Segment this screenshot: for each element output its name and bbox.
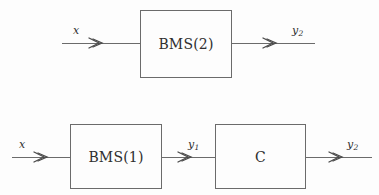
signal-subscript: 1: [195, 143, 200, 152]
wire-bottom-intermediate: [161, 157, 216, 158]
signal-subscript: 2: [299, 29, 304, 38]
block-c-label: C: [255, 149, 266, 165]
block-bms2-label: BMS(2): [158, 36, 213, 52]
signal-label-bottom-intermediate: y1: [188, 139, 199, 150]
signal-base: y: [188, 138, 194, 151]
signal-label-top-output: y2: [292, 25, 303, 36]
signal-label-bottom-output: y2: [347, 139, 358, 150]
signal-label-top-input: x: [73, 25, 79, 36]
wire-bottom-input: [12, 157, 71, 158]
block-c[interactable]: C: [215, 124, 306, 189]
block-bms1[interactable]: BMS(1): [70, 124, 162, 189]
block-bms1-label: BMS(1): [88, 149, 143, 165]
block-bms2[interactable]: BMS(2): [140, 10, 232, 78]
wire-bottom-output: [305, 157, 372, 158]
signal-base: y: [292, 24, 298, 37]
wire-top-output: [231, 43, 315, 44]
wire-top-input: [62, 43, 141, 44]
block-diagram: x BMS(2) y2 x BMS(1) y1 C: [0, 0, 379, 195]
signal-base: y: [347, 138, 353, 151]
signal-label-bottom-input: x: [19, 139, 25, 150]
signal-subscript: 2: [354, 143, 359, 152]
